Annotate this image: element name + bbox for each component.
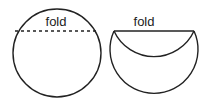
unfolded-circle: fold [13,9,101,97]
fold-label-right: fold [134,14,155,29]
folded-circle-outer-arc [110,31,198,93]
fold-label-left: fold [46,14,67,29]
folded-flap-arc [114,31,194,57]
folded-circle: fold [110,14,198,93]
fold-diagram: fold fold [0,0,206,106]
